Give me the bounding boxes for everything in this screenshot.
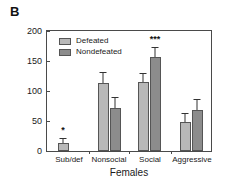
x-tick-mark-1 xyxy=(89,151,90,154)
x-tick-label-subdef: Sub/def xyxy=(55,155,83,164)
bar-defeated-social[interactable] xyxy=(138,31,149,151)
y-tick-label-100: 100 xyxy=(3,87,47,96)
x-tick-label-aggressive: Aggressive xyxy=(172,155,212,164)
plot-area: Duration of behavior (sec) 0 50 100 150 … xyxy=(46,30,212,152)
y-tick-label-0: 0 xyxy=(3,147,47,156)
bar-group-social: *** xyxy=(129,31,169,151)
significance-social-nondefeated: *** xyxy=(150,35,161,44)
bar-defeated-nonsocial[interactable] xyxy=(98,31,109,151)
bar-group-subdef: * xyxy=(49,31,89,151)
bar-nondefeated-nonsocial[interactable] xyxy=(110,31,121,151)
x-tick-mark-3 xyxy=(171,151,172,154)
x-tick-label-social: Social xyxy=(139,155,161,164)
y-tick-label-50: 50 xyxy=(3,117,47,126)
bar-nondefeated-subdef xyxy=(70,31,81,151)
y-tick-mark-0 xyxy=(47,151,50,152)
y-tick-label-150: 150 xyxy=(3,57,47,66)
bar-defeated-aggressive[interactable] xyxy=(180,31,191,151)
x-tick-mark-2 xyxy=(129,151,130,154)
figure-panel: B Duration of behavior (sec) 0 50 100 15… xyxy=(0,0,234,185)
y-axis-title: Duration of behavior (sec) xyxy=(16,0,30,19)
significance-subdef-defeated: * xyxy=(61,126,65,135)
x-tick-label-nonsocial: Nonsocial xyxy=(91,155,126,164)
bar-group-aggressive xyxy=(171,31,211,151)
bar-nondefeated-aggressive[interactable] xyxy=(192,31,203,151)
x-axis-title: Females xyxy=(46,167,212,178)
bar-nondefeated-social[interactable]: *** xyxy=(150,31,161,151)
y-tick-label-200: 200 xyxy=(3,27,47,36)
bar-defeated-subdef[interactable]: * xyxy=(58,31,69,151)
bar-group-nonsocial xyxy=(89,31,129,151)
